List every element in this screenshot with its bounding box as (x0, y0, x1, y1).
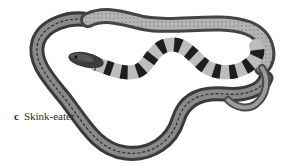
snake-illustration (0, 0, 286, 168)
panel-letter: c (14, 110, 19, 122)
species-name: Skink-eater (24, 110, 75, 122)
figure-caption: cSkink-eater (14, 111, 75, 122)
snake-banded-neck (96, 44, 258, 72)
snake-eye (75, 56, 78, 59)
snake-figure: cSkink-eater (0, 0, 286, 168)
snake-body-outer-loop (37, 19, 266, 153)
